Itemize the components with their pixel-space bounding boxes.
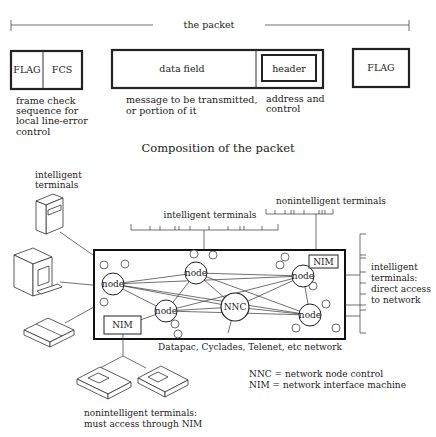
svg-text:node: node (155, 306, 177, 316)
legend-nim: NIM = network interface machine (249, 380, 406, 390)
fcs-desc-3: local line-error (16, 115, 88, 126)
svg-text:NIM: NIM (313, 257, 334, 267)
right-label-3: direct access (371, 284, 431, 294)
svg-text:node: node (185, 268, 207, 278)
node-a: node (102, 273, 124, 295)
nim-box-top: NIM (309, 255, 338, 268)
right-label-4: to network (371, 295, 421, 305)
packet-descriptions: frame check sequence for local line-erro… (16, 93, 325, 137)
monitor-terminal-icon (14, 248, 62, 296)
header-label: header (272, 63, 306, 74)
nim-box-bottom: NIM (104, 316, 141, 334)
packet-network-diagram: the packet FLAG FCS data field header FL… (0, 0, 436, 437)
left-terminals-label-1: intelligent (35, 170, 82, 180)
flag-end-label: FLAG (367, 62, 394, 73)
packet-fields: FLAG FCS data field header FLAG (11, 49, 409, 89)
node-e: node (299, 304, 321, 326)
left-terminals-label-2: terminals (35, 180, 79, 190)
svg-text:node: node (299, 310, 321, 320)
tower-terminal-icon (36, 194, 63, 234)
svg-text:NNC: NNC (224, 302, 247, 312)
node-b: node (185, 262, 207, 284)
fcs-desc-4: control (16, 126, 50, 137)
svg-text:node: node (102, 279, 124, 289)
svg-text:node: node (292, 271, 314, 281)
packet-span-label: the packet (184, 19, 235, 30)
bottom-terminal-1-icon (77, 367, 131, 399)
legend-nnc: NNC = network node control (249, 369, 383, 379)
svg-text:NIM: NIM (112, 320, 133, 330)
node-d: node (155, 300, 177, 322)
flag-start-label: FLAG (13, 64, 40, 75)
data-field-label: data field (159, 63, 204, 74)
fcs-label: FCS (52, 64, 72, 75)
bottom-label-2: must access through NIM (84, 419, 202, 429)
packet-caption: Composition of the packet (141, 141, 295, 155)
network-name-label: Datapac, Cyclades, Telenet, etc network (158, 342, 342, 352)
right-terminals-bracket (345, 234, 366, 333)
top-nonintelligent-label: nonintelligent terminals (276, 196, 386, 206)
packet-span: the packet (11, 19, 409, 31)
top-intelligent-label: intelligent terminals (164, 210, 257, 220)
intelligent-terminals-bus (131, 224, 278, 250)
diagram-svg: the packet FLAG FCS data field header FL… (0, 0, 436, 437)
right-label-1: intelligent (371, 262, 418, 272)
data-desc-1: message to be transmitted, (126, 94, 257, 105)
bottom-terminal-2-icon (138, 366, 188, 397)
nnc-node: NNC (221, 293, 249, 321)
bottom-label-1: nonintelligent terminals: (84, 408, 197, 418)
header-desc-2: control (266, 103, 300, 114)
data-desc-2: or portion of it (126, 105, 197, 116)
right-label-2: terminals: (371, 273, 417, 283)
nonintelligent-terminals-bus (266, 209, 333, 255)
